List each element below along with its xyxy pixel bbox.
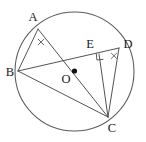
- angle-mark-d-icon: [111, 53, 116, 58]
- point-label-b: B: [6, 65, 14, 79]
- angle-mark-a-icon: [38, 39, 44, 45]
- segment-ab: [18, 29, 38, 71]
- geometry-canvas: A B C D E O: [0, 0, 146, 142]
- point-label-e: E: [86, 37, 94, 51]
- geometry-figure: A B C D E O: [0, 0, 146, 142]
- point-label-c: C: [108, 121, 116, 135]
- point-label-a: A: [28, 10, 37, 24]
- centre-dot: [72, 68, 77, 73]
- segment-dc: [108, 48, 119, 117]
- centre-label-o: O: [61, 72, 70, 86]
- point-label-d: D: [123, 37, 132, 51]
